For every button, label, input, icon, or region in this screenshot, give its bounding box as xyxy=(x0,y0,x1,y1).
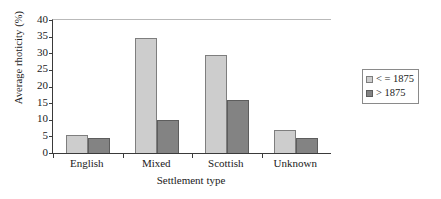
y-axis-tick-mark xyxy=(49,37,53,38)
legend-label: < = 1875 xyxy=(376,73,414,85)
legend-swatch-icon xyxy=(366,76,373,83)
x-axis-tick-label: Mixed xyxy=(122,156,192,170)
y-axis-tick-mark xyxy=(49,120,53,121)
bar xyxy=(205,55,227,153)
y-axis-tick-mark xyxy=(49,20,53,21)
bar xyxy=(296,138,318,153)
bar xyxy=(274,130,296,153)
x-axis-tick-labels: EnglishMixedScottishUnknown xyxy=(52,156,330,172)
y-axis-tick-label: 0 xyxy=(24,147,48,158)
y-axis-tick-label: 15 xyxy=(24,97,48,108)
y-axis-tick-label: 10 xyxy=(24,113,48,124)
y-axis-tick-label: 30 xyxy=(24,47,48,58)
bars-layer xyxy=(53,20,331,153)
y-axis-tick-label: 20 xyxy=(24,80,48,91)
y-axis-tick-label: 40 xyxy=(24,14,48,25)
legend-swatch-icon xyxy=(366,90,373,97)
x-axis-tick-label: Scottish xyxy=(191,156,261,170)
y-axis-title: Average rhoticity (%) xyxy=(13,0,24,128)
y-axis-tick-mark xyxy=(49,136,53,137)
y-axis-tick-mark xyxy=(49,53,53,54)
bar xyxy=(227,100,249,153)
bar xyxy=(88,138,110,153)
x-axis-title: Settlement type xyxy=(52,174,330,186)
y-axis-tick-mark xyxy=(49,70,53,71)
y-axis-tick-labels: 0510152025303540 xyxy=(24,0,48,199)
legend: < = 1875> 1875 xyxy=(362,69,419,104)
y-axis-tick-label: 35 xyxy=(24,30,48,41)
y-axis-tick-label: 25 xyxy=(24,63,48,74)
legend-label: > 1875 xyxy=(376,87,406,99)
bar-chart-figure: Average rhoticity (%) 0510152025303540 E… xyxy=(0,0,441,199)
y-axis-tick-mark xyxy=(49,103,53,104)
plot-area xyxy=(52,19,331,154)
y-axis-tick-mark xyxy=(49,87,53,88)
legend-item: < = 1875 xyxy=(366,72,414,86)
legend-item: > 1875 xyxy=(366,86,414,100)
x-axis-tick-label: English xyxy=(52,156,122,170)
bar xyxy=(135,38,157,153)
x-axis-tick-label: Unknown xyxy=(261,156,331,170)
bar xyxy=(66,135,88,153)
y-axis-tick-label: 5 xyxy=(24,130,48,141)
bar xyxy=(157,120,179,153)
